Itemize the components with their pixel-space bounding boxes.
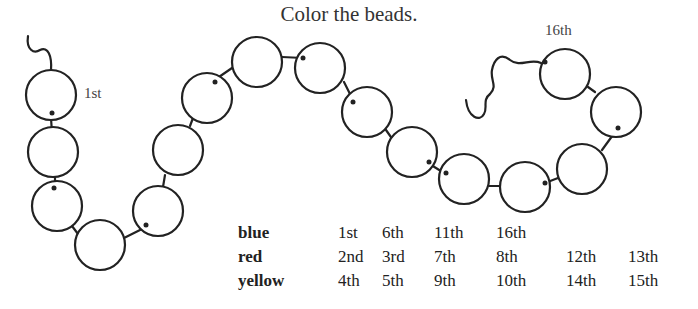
bead-14[interactable] [557, 144, 607, 194]
bead-12[interactable] [439, 154, 489, 204]
key-position: 4th [338, 271, 360, 291]
string-end [466, 57, 541, 118]
key-position: 1st [338, 223, 358, 243]
key-position: 2nd [338, 247, 364, 267]
key-position: 3rd [382, 247, 405, 267]
key-position: 8th [496, 247, 518, 267]
key-position: 6th [382, 223, 404, 243]
string-start [28, 36, 51, 70]
bead-2[interactable] [28, 127, 78, 177]
label-first-bead: 1st [84, 85, 102, 102]
bead-4[interactable] [75, 220, 125, 270]
key-color-label: red [238, 247, 262, 267]
key-position: 10th [496, 271, 526, 291]
bead-13[interactable] [500, 162, 550, 212]
key-position: 5th [382, 271, 404, 291]
bead-10[interactable] [342, 87, 392, 137]
bead-6[interactable] [153, 125, 203, 175]
key-position: 7th [434, 247, 456, 267]
key-color-label: yellow [238, 271, 284, 291]
key-position: 14th [566, 271, 596, 291]
key-position: 16th [496, 223, 526, 243]
bead-7[interactable] [182, 73, 232, 123]
key-position: 11th [434, 223, 464, 243]
key-position: 15th [628, 271, 658, 291]
bead-3[interactable] [32, 181, 82, 231]
key-color-label: blue [238, 223, 269, 243]
bead-5[interactable] [133, 186, 183, 236]
key-position: 9th [434, 271, 456, 291]
key-position: 12th [566, 247, 596, 267]
label-last-bead: 16th [545, 22, 572, 39]
bead-16[interactable] [540, 49, 590, 99]
bead-8[interactable] [232, 37, 282, 87]
bead-11[interactable] [387, 127, 437, 177]
key-position: 13th [628, 247, 658, 267]
bead-9[interactable] [295, 43, 345, 93]
